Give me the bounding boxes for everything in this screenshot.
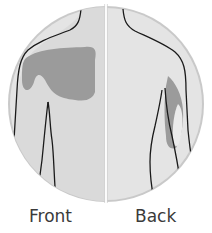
front-label: Front	[29, 206, 72, 226]
body-map-illustration	[0, 0, 212, 233]
back-label: Back	[135, 206, 176, 226]
body-diagram: Front Back	[0, 0, 212, 233]
